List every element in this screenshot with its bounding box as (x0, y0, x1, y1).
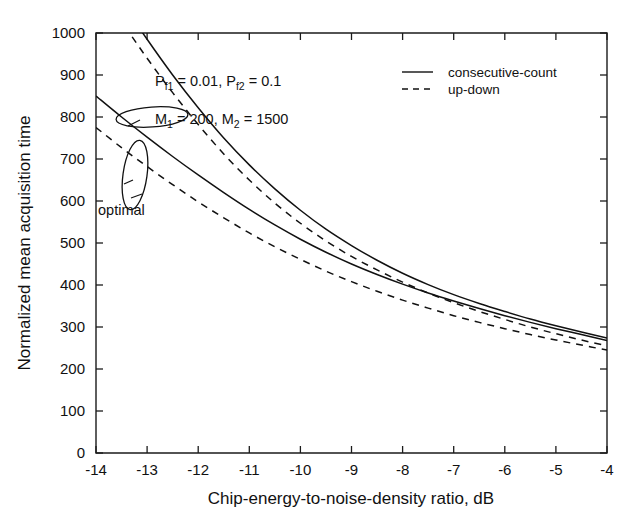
pf-mid: = 0.01, P (173, 73, 235, 89)
x-tick-label: -4 (600, 461, 613, 478)
m-mid: = 200, M (173, 111, 234, 127)
x-axis-tick-labels: -14-13-12-11-10-9-8-7-6-5-4 (85, 461, 614, 478)
y-tick-label: 800 (60, 108, 85, 125)
pf-sub-1: f1 (165, 80, 174, 92)
curve-0 (96, 0, 607, 338)
axis-frame (96, 33, 607, 453)
y-tick-label: 100 (60, 402, 85, 419)
optimal-pair-ellipse (118, 139, 152, 212)
x-tick-label: -10 (290, 461, 312, 478)
legend-label-up-down: up-down (448, 82, 500, 97)
y-tick-label: 600 (60, 192, 85, 209)
optimal-pointer-1 (124, 180, 133, 184)
curve-2 (96, 0, 607, 346)
y-tick-label: 0 (77, 444, 85, 461)
legend-label-consecutive-count: consecutive-count (448, 65, 557, 80)
x-tick-label: -8 (396, 461, 409, 478)
pf-sub-2: f2 (236, 80, 245, 92)
x-tick-label: -14 (85, 461, 107, 478)
curve-3 (96, 128, 607, 351)
figure-container: -14-13-12-11-10-9-8-7-6-5-4 010020030040… (0, 0, 638, 532)
x-tick-label: -9 (345, 461, 358, 478)
optimal-label: optimal (98, 202, 145, 218)
y-tick-label: 1000 (52, 24, 85, 41)
annotation-false-alarm: Pf1 = 0.01, Pf2 = 0.1 (155, 73, 281, 92)
axes-group (96, 33, 607, 453)
m-annotation: M1 = 200, M2 = 1500 (155, 111, 288, 130)
curve-1 (96, 96, 607, 340)
x-tick-label: -11 (239, 461, 260, 478)
x-axis-ticks (96, 33, 607, 453)
y-axis-ticks (96, 33, 607, 453)
y-tick-label: 700 (60, 150, 85, 167)
y-axis-title: Normalized mean acquisition time (15, 115, 34, 370)
pf-annotation: Pf1 = 0.01, Pf2 = 0.1 (155, 73, 281, 92)
y-tick-label: 200 (60, 360, 85, 377)
pf-end: = 0.1 (245, 73, 282, 89)
x-tick-label: -6 (498, 461, 511, 478)
optimal-pointer-2 (131, 194, 142, 198)
x-tick-label: -12 (187, 461, 209, 478)
chart-canvas: -14-13-12-11-10-9-8-7-6-5-4 010020030040… (0, 0, 638, 532)
x-axis-title: Chip-energy-to-noise-density ratio, dB (208, 489, 494, 508)
annotation-dwell: M1 = 200, M2 = 1500 (155, 111, 288, 130)
x-tick-label: -13 (136, 461, 158, 478)
x-tick-label: -5 (549, 461, 562, 478)
y-axis-tick-labels: 01002003004005006007008009001000 (52, 24, 85, 461)
m-prefix: M (155, 111, 167, 127)
y-tick-label: 500 (60, 234, 85, 251)
pf-prefix: P (155, 73, 165, 89)
y-tick-label: 900 (60, 66, 85, 83)
m-end: = 1500 (240, 111, 289, 127)
data-curves (96, 0, 607, 350)
legend: consecutive-count up-down (402, 65, 557, 97)
y-tick-label: 400 (60, 276, 85, 293)
y-tick-label: 300 (60, 318, 85, 335)
x-tick-label: -7 (447, 461, 460, 478)
